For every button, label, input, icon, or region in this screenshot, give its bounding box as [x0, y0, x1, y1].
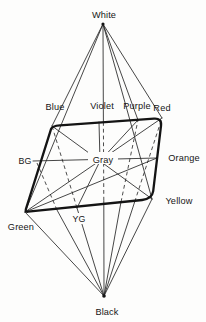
white-apex-point: [101, 22, 104, 25]
generator-black-yellow: [104, 199, 152, 296]
generator-black-red-visible: [104, 202, 135, 296]
label-violet: Violet: [90, 101, 114, 111]
label-purple: Purple: [123, 101, 150, 111]
label-yellow: Yellow: [165, 196, 192, 206]
scanned-figure-page: White Blue Violet Purple Red Orange Yell…: [0, 0, 206, 322]
label-red: Red: [153, 103, 170, 113]
generator-white-yellow: [103, 24, 152, 199]
label-gray: Gray: [93, 155, 114, 165]
label-bg: BG: [18, 156, 31, 166]
label-yg: YG: [72, 214, 85, 224]
label-green: Green: [8, 222, 34, 232]
label-black: Black: [95, 307, 118, 317]
generator-black-purple-visible: [104, 202, 121, 296]
generator-white-green: [25, 24, 103, 212]
label-blue: Blue: [46, 102, 65, 112]
generator-black-purple-hidden: [121, 120, 138, 202]
diagonal-green-red: [25, 118, 162, 212]
color-solid-diagram: White Blue Violet Purple Red Orange Yell…: [0, 0, 206, 322]
label-white: White: [92, 10, 116, 20]
black-apex-point: [102, 294, 106, 298]
label-orange: Orange: [168, 153, 200, 163]
hue-spokes: [25, 118, 162, 212]
line-green-orange: [25, 158, 157, 212]
